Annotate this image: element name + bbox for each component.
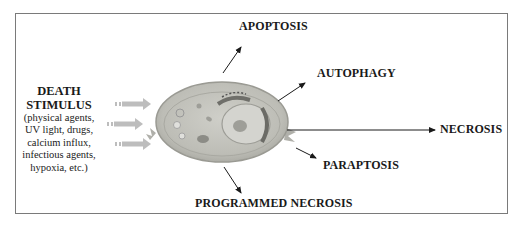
arrow-to-apoptosis [223,47,241,73]
stimulus-arrow-icon [115,138,151,150]
stimulus-arrow-icon [115,98,151,110]
death-stimulus-block: DEATH STIMULUS (physical agents, UV ligh… [18,84,100,174]
cell-illustration [146,82,296,162]
arrow-to-autophagy [278,83,305,101]
stimulus-detail: infectious agents, [18,149,100,161]
arrow-to-paraptosis [296,148,316,158]
stimulus-arrow-icon [107,118,143,130]
label-apoptosis: APOPTOSIS [239,19,308,34]
stimulus-heading-line2: STIMULUS [18,98,100,112]
stimulus-heading-line1: DEATH [18,84,100,98]
label-necrosis: NECROSIS [440,122,502,137]
label-programmed-necrosis: PROGRAMMED NECROSIS [195,196,353,211]
arrow-to-programmed-necrosis [224,167,241,193]
stimulus-arrows [107,98,151,150]
stimulus-detail: UV light, drugs, [18,124,100,136]
label-paraptosis: PARAPTOSIS [323,158,399,173]
label-autophagy: AUTOPHAGY [317,66,396,81]
stimulus-detail: hypoxia, etc.) [18,162,100,174]
stimulus-detail: calcium influx, [18,137,100,149]
stimulus-detail: (physical agents, [18,112,100,124]
